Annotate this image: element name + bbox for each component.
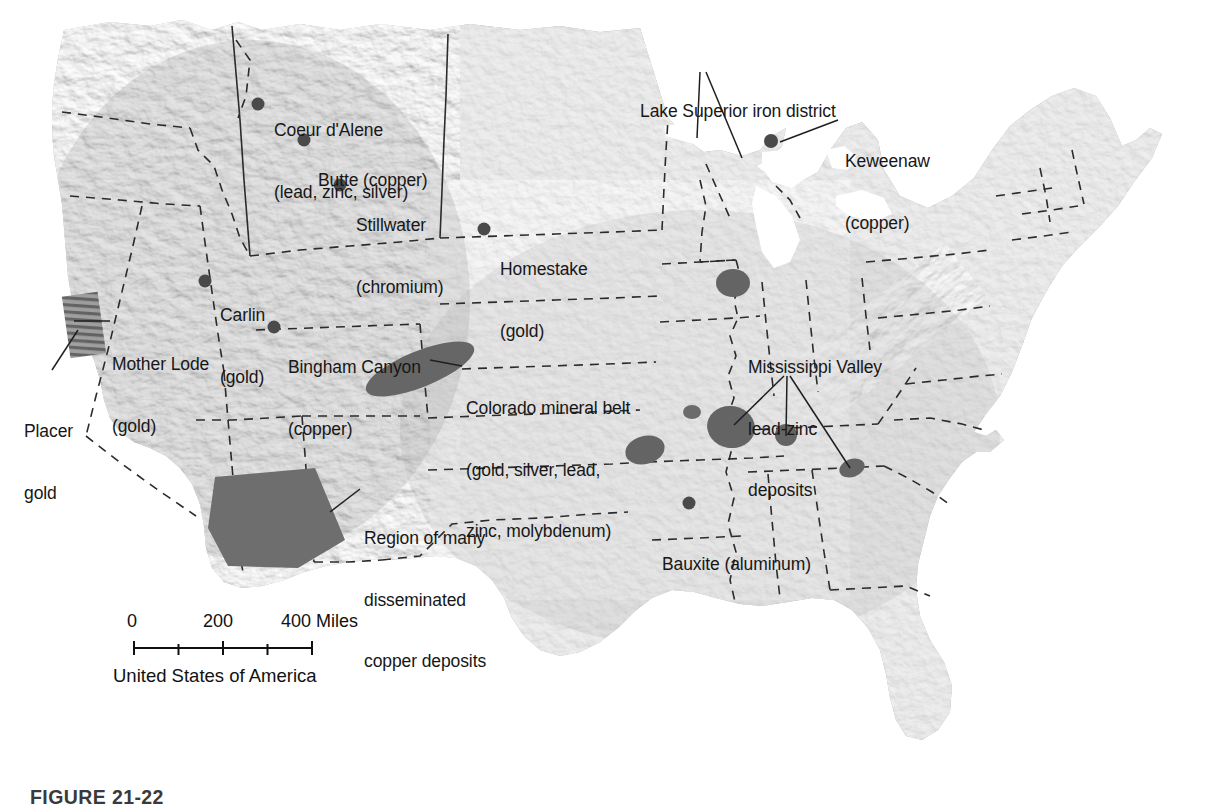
dot-coeur-dalene[interactable] bbox=[252, 98, 265, 111]
scale-label-400-miles: 400 Miles bbox=[281, 611, 358, 632]
ore-mississippi-upper-blob bbox=[716, 269, 750, 297]
dot-bauxite[interactable] bbox=[683, 497, 696, 510]
map-canvas: Coeur d'Alene (lead, zinc, silver) Butte… bbox=[0, 0, 1213, 760]
label-mississippi-valley-line3: deposits bbox=[748, 480, 882, 501]
label-stillwater: Stillwater (chromium) bbox=[356, 174, 443, 338]
scale-label-200: 200 bbox=[203, 611, 233, 632]
dot-bingham-canyon[interactable] bbox=[268, 321, 281, 334]
label-disseminated-copper-line2: disseminated bbox=[364, 590, 486, 611]
label-keweenaw-line2: (copper) bbox=[845, 213, 930, 234]
label-mississippi-valley-line2: lead-zinc bbox=[748, 419, 882, 440]
label-homestake-line2: (gold) bbox=[500, 321, 588, 342]
dot-carlin[interactable] bbox=[199, 275, 212, 288]
label-colorado-belt-line3: zinc, molybdenum) bbox=[466, 521, 630, 542]
label-disseminated-copper: Region of many disseminated copper depos… bbox=[364, 487, 486, 713]
map-title: United States of America bbox=[113, 665, 317, 687]
label-disseminated-copper-line1: Region of many bbox=[364, 528, 486, 549]
label-bingham-canyon: Bingham Canyon (copper) bbox=[288, 316, 421, 480]
figure-caption: FIGURE 21-22 bbox=[30, 786, 164, 808]
label-bingham-canyon-line2: (copper) bbox=[288, 419, 421, 440]
label-placer-gold: Placer gold bbox=[24, 380, 73, 544]
label-keweenaw-line1: Keweenaw bbox=[845, 151, 930, 172]
label-placer-gold-line1: Placer bbox=[24, 421, 73, 442]
scale-bar bbox=[134, 641, 312, 655]
label-stillwater-line1: Stillwater bbox=[356, 215, 443, 236]
label-colorado-mineral-belt: Colorado mineral belt (gold, silver, lea… bbox=[466, 357, 630, 583]
label-stillwater-line2: (chromium) bbox=[356, 277, 443, 298]
label-carlin-line1: Carlin bbox=[220, 305, 265, 326]
label-mississippi-valley-line1: Mississippi Valley bbox=[748, 357, 882, 378]
label-placer-gold-line2: gold bbox=[24, 483, 73, 504]
label-carlin: Carlin (gold) bbox=[220, 264, 265, 428]
label-colorado-belt-line1: Colorado mineral belt bbox=[466, 398, 630, 419]
label-mother-lode: Mother Lode (gold) bbox=[112, 313, 209, 477]
label-mother-lode-line1: Mother Lode bbox=[112, 354, 209, 375]
label-bauxite-line1: Bauxite (aluminum) bbox=[662, 554, 811, 575]
label-homestake-line1: Homestake bbox=[500, 259, 588, 280]
label-colorado-belt-line2: (gold, silver, lead, bbox=[466, 460, 630, 481]
label-carlin-line2: (gold) bbox=[220, 367, 265, 388]
ore-small-blob bbox=[683, 405, 701, 419]
label-lake-superior-line1: Lake Superior iron district bbox=[640, 101, 836, 122]
scale-label-0: 0 bbox=[127, 611, 137, 632]
label-mother-lode-line2: (gold) bbox=[112, 416, 209, 437]
label-disseminated-copper-line3: copper deposits bbox=[364, 651, 486, 672]
dot-homestake[interactable] bbox=[478, 223, 491, 236]
label-mississippi-valley: Mississippi Valley lead-zinc deposits bbox=[748, 316, 882, 542]
label-bingham-canyon-line1: Bingham Canyon bbox=[288, 357, 421, 378]
label-keweenaw: Keweenaw (copper) bbox=[845, 110, 930, 274]
label-lake-superior-iron-district: Lake Superior iron district bbox=[640, 60, 836, 163]
